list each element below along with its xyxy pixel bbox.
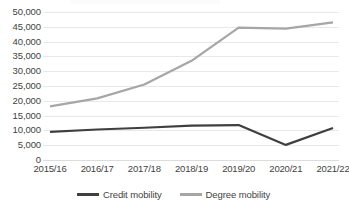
- top-crop-artifact: [70, 0, 220, 4]
- legend-item-degree-mobility[interactable]: Degree mobility: [180, 189, 271, 200]
- y-axis-tick-label: 20,000: [0, 96, 41, 106]
- y-axis-tick-label: 5,000: [0, 140, 41, 150]
- y-axis-tick-label: 45,000: [0, 22, 41, 32]
- y-axis-tick-label: 35,000: [0, 51, 41, 61]
- x-axis-tick-label: 2020/21: [269, 163, 302, 175]
- y-axis-tick-label: 15,000: [0, 111, 41, 121]
- legend-label: Degree mobility: [206, 189, 271, 200]
- legend-line-swatch-icon: [77, 193, 99, 196]
- y-axis-tick-label: 40,000: [0, 37, 41, 47]
- legend-item-credit-mobility[interactable]: Credit mobility: [77, 189, 162, 200]
- y-axis-tick-label: 30,000: [0, 66, 41, 76]
- legend-label: Credit mobility: [103, 189, 162, 200]
- series-line-credit-mobility: [50, 125, 333, 145]
- plot-area: [43, 12, 339, 160]
- series-line-degree-mobility: [50, 22, 333, 106]
- legend-line-swatch-icon: [180, 193, 202, 196]
- x-axis-tick-label: 2016/17: [81, 163, 114, 175]
- x-axis-tick-label: 2017/18: [128, 163, 161, 175]
- y-axis-tick-label: 25,000: [0, 81, 41, 91]
- gridline: [43, 160, 339, 161]
- x-axis-tick-label: 2018/19: [175, 163, 208, 175]
- x-axis-tick-label: 2019/20: [222, 163, 255, 175]
- y-axis-tick-label: 10,000: [0, 125, 41, 135]
- x-axis-tick-label: 2021/22: [317, 163, 349, 175]
- series-layer: [43, 12, 339, 160]
- x-axis: 2015/162016/172017/182018/192019/202020/…: [43, 163, 339, 177]
- y-axis-tick-label: 50,000: [0, 7, 41, 17]
- chart-legend: Credit mobilityDegree mobility: [0, 186, 347, 202]
- x-axis-tick-label: 2015/16: [34, 163, 67, 175]
- y-axis: 50,00045,00040,00035,00030,00025,00020,0…: [0, 12, 41, 160]
